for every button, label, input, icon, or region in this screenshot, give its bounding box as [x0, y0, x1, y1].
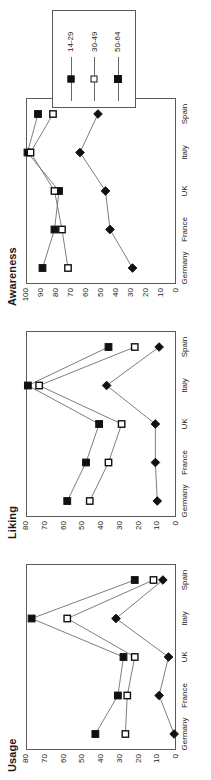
series-data-point [151, 458, 160, 467]
series-data-point [51, 226, 58, 233]
series-line [32, 580, 135, 734]
chart-panel-usage: Usage 01020304050607080GermanyFranceUKIt… [0, 547, 211, 780]
series-data-point [76, 148, 85, 157]
plot-area-liking: 01020304050607080GermanyFranceUKItalySpa… [26, 331, 176, 517]
legend-entry-label: 50-64 [113, 32, 122, 52]
y-axis-tick-label: 30 [116, 521, 124, 530]
series-data-point [24, 382, 31, 389]
y-axis-tick-label: 80 [52, 288, 60, 297]
plot-area-usage: 01020304050607080GermanyFranceUKItalySpa… [26, 564, 176, 750]
series-data-point [83, 459, 90, 466]
y-axis-tick-label: 0 [172, 521, 180, 525]
x-axis-category-label: Italy [181, 145, 189, 160]
series-layer-usage [26, 564, 176, 750]
series-data-point [122, 731, 128, 737]
series-data-point [35, 111, 42, 118]
series-data-point [118, 421, 124, 427]
y-axis-tick-label: 50 [78, 754, 86, 763]
y-axis-tick-label: 60 [60, 521, 68, 530]
series-data-point [105, 344, 112, 351]
panel-title-usage: Usage [6, 738, 18, 772]
series-data-point [132, 344, 138, 350]
y-axis-tick-label: 20 [135, 521, 143, 530]
series-data-point [132, 654, 138, 660]
series-data-point [155, 343, 164, 352]
x-axis-category-label: Germany [181, 252, 189, 285]
legend-marker-open-square-icon [89, 57, 99, 101]
series-data-point [128, 264, 137, 273]
series-layer-awareness [26, 98, 176, 284]
series-data-point [50, 111, 56, 117]
y-axis-tick-label: 20 [135, 754, 143, 763]
series-data-point [164, 653, 173, 662]
series-data-point [114, 692, 121, 699]
legend-entry: 14-29 [61, 17, 81, 101]
panel-title-liking: Liking [6, 506, 18, 539]
series-data-point [87, 498, 93, 504]
series-data-point [64, 615, 70, 621]
y-axis-tick-label: 70 [41, 521, 49, 530]
y-axis-tick-label: 60 [82, 288, 90, 297]
x-axis-category-label: Germany [181, 718, 189, 751]
chart-legend: 14-2930-4950-64 [52, 10, 136, 108]
filled-diamond-icon [114, 75, 122, 83]
y-axis-tick-label: 50 [78, 521, 86, 530]
y-axis-tick-label: 60 [60, 754, 68, 763]
series-data-point [151, 420, 160, 429]
legend-marker-filled-diamond-icon [113, 57, 123, 101]
series-data-point [39, 265, 46, 272]
multi-panel-line-chart-figure: Usage 01020304050607080GermanyFranceUKIt… [0, 0, 211, 780]
x-axis-category-label: UK [181, 418, 189, 429]
y-axis-tick-label: 50 [97, 288, 105, 297]
y-axis-tick-label: 70 [41, 754, 49, 763]
series-data-point [96, 421, 103, 428]
legend-marker-filled-square-icon [66, 57, 76, 101]
y-axis-tick-label: 10 [153, 754, 161, 763]
y-axis-tick-label: 30 [127, 288, 135, 297]
open-square-icon [91, 76, 98, 83]
series-data-point [51, 188, 57, 194]
y-axis-tick-label: 0 [172, 288, 180, 292]
x-axis-category-label: Italy [181, 378, 189, 393]
series-data-point [94, 110, 103, 119]
series-data-point [102, 381, 111, 390]
series-data-point [153, 497, 162, 506]
chart-panel-liking: Liking 01020304050607080GermanyFranceUKI… [0, 314, 211, 547]
y-axis-tick-label: 30 [116, 754, 124, 763]
series-data-point [92, 731, 99, 738]
y-axis-tick-label: 80 [22, 521, 30, 530]
series-data-point [105, 459, 111, 465]
x-axis-category-label: Germany [181, 485, 189, 518]
series-data-point [65, 265, 71, 271]
y-axis-tick-label: 0 [172, 754, 180, 758]
plot-area-awareness: 0102030405060708090100GermanyFranceUKIta… [26, 98, 176, 284]
y-axis-tick-label: 100 [22, 288, 30, 301]
series-data-point [28, 615, 35, 622]
series-data-point [155, 691, 164, 700]
series-data-point [170, 730, 179, 739]
series-line [67, 580, 153, 734]
legend-entry-label: 30-49 [90, 32, 99, 52]
x-axis-category-label: Italy [181, 611, 189, 626]
series-data-point [131, 577, 138, 584]
y-axis-tick-label: 40 [97, 754, 105, 763]
y-axis-tick-label: 20 [142, 288, 150, 297]
series-data-point [150, 577, 156, 583]
filled-square-icon [67, 76, 74, 83]
x-axis-category-label: France [181, 450, 189, 475]
legend-entry: 30-49 [84, 17, 104, 101]
x-axis-category-label: France [181, 683, 189, 708]
series-data-point [106, 225, 115, 234]
x-axis-category-label: UK [181, 185, 189, 196]
panel-title-awareness: Awareness [6, 247, 18, 306]
x-axis-category-label: France [181, 217, 189, 242]
x-axis-category-label: UK [181, 651, 189, 662]
y-axis-tick-label: 10 [157, 288, 165, 297]
y-axis-tick-label: 40 [112, 288, 120, 297]
x-axis-category-label: Spain [181, 570, 189, 590]
series-data-point [120, 654, 127, 661]
y-axis-tick-label: 10 [153, 521, 161, 530]
legend-entry: 50-64 [108, 17, 128, 101]
series-data-point [101, 187, 110, 196]
x-axis-category-label: Spain [181, 337, 189, 357]
